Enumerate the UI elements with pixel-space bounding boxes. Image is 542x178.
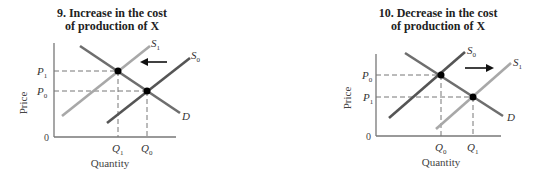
chart2-tick-p0: P0 bbox=[361, 69, 373, 84]
chart2-y-label: Price bbox=[341, 87, 353, 110]
chart1-title-line2: of production of X bbox=[65, 19, 159, 33]
chart2-x-label: Quantity bbox=[422, 156, 461, 168]
chart1-equilibrium-1 bbox=[115, 68, 122, 75]
chart1-label-d: D bbox=[181, 110, 190, 122]
chart1-label-s1: S1 bbox=[151, 37, 161, 52]
chart1-tick-q1: Q1 bbox=[112, 142, 124, 157]
chart2-title-line2: of production of X bbox=[391, 19, 485, 33]
chart2-tick-q1: Q1 bbox=[467, 141, 479, 156]
chart1-tick-q0: Q0 bbox=[141, 142, 153, 157]
chart1-equilibrium-0 bbox=[144, 88, 151, 95]
chart1-demand bbox=[80, 46, 180, 113]
chart2-equilibrium-0 bbox=[438, 72, 445, 79]
chart2-origin: 0 bbox=[366, 131, 371, 142]
chart1-label-s0: S0 bbox=[191, 49, 201, 64]
chart2-label-s1: S1 bbox=[513, 56, 523, 71]
chart-decrease-cost: 10. Decrease in the cost of production o… bbox=[341, 6, 523, 168]
chart1-origin: 0 bbox=[44, 132, 49, 143]
chart2-tick-p1: P1 bbox=[362, 91, 374, 106]
chart1-tick-p1: P1 bbox=[36, 65, 48, 80]
chart1-y-label: Price bbox=[17, 92, 29, 115]
chart1-title-line1: 9. Increase in the cost bbox=[57, 6, 167, 20]
chart1-x-label: Quantity bbox=[91, 157, 130, 169]
charts-canvas: 9. Increase in the cost of production of… bbox=[0, 0, 542, 178]
chart1-supply-s1 bbox=[62, 46, 150, 116]
chart2-tick-q0: Q0 bbox=[435, 141, 447, 156]
chart2-guides bbox=[376, 75, 473, 136]
chart2-equilibrium-1 bbox=[470, 94, 477, 101]
chart1-tick-p0: P0 bbox=[36, 85, 48, 100]
chart2-label-d: D bbox=[506, 111, 515, 123]
chart2-label-s0: S0 bbox=[467, 44, 477, 59]
chart2-title-line1: 10. Decrease in the cost bbox=[379, 6, 498, 20]
chart-increase-cost: 9. Increase in the cost of production of… bbox=[17, 6, 201, 169]
